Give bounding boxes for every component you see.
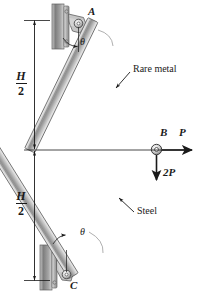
force-label-2P: 2P bbox=[163, 167, 175, 178]
fraction-numerator: H bbox=[12, 190, 30, 203]
lower-bar-end-arc bbox=[89, 232, 103, 253]
steel-leader bbox=[119, 198, 134, 212]
rare-metal-leader bbox=[116, 72, 130, 88]
fraction-numerator: H bbox=[12, 70, 30, 83]
figure-canvas: A B C P 2P Rare metal Steel θ θ H 2 H 2 bbox=[0, 0, 198, 293]
pin-at-B bbox=[151, 144, 161, 154]
diagram-svg bbox=[0, 0, 198, 293]
material-label-steel: Steel bbox=[137, 206, 157, 216]
material-label-rare-metal: Rare metal bbox=[133, 64, 177, 74]
pin-at-A bbox=[74, 19, 83, 28]
angle-label-theta-upper: θ bbox=[80, 37, 85, 47]
fraction-denominator: 2 bbox=[12, 84, 30, 97]
point-label-B: B bbox=[160, 127, 167, 138]
point-label-C: C bbox=[70, 280, 77, 291]
dimension-label-upper-h-over-2: H 2 bbox=[12, 70, 30, 97]
dimension-label-lower-h-over-2: H 2 bbox=[12, 190, 30, 217]
angle-label-theta-lower: θ bbox=[80, 227, 85, 237]
fraction-denominator: 2 bbox=[12, 204, 30, 217]
upper-bar-end-arc bbox=[98, 30, 113, 46]
force-label-P: P bbox=[179, 127, 186, 138]
point-label-A: A bbox=[88, 6, 95, 17]
